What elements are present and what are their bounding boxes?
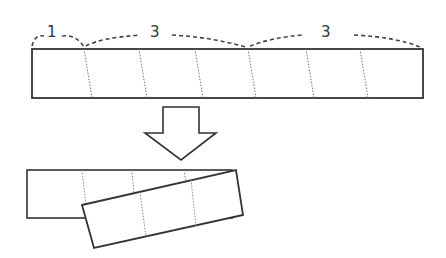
segment-braces [32,35,420,47]
down-arrow-icon [145,107,216,160]
label-1: 1 [47,23,57,41]
brace-1 [32,36,84,47]
label-3-second: 3 [321,23,331,41]
brace-3-right [250,35,420,47]
folding-diagram: 1 3 3 [0,0,446,258]
label-3-first: 3 [150,23,160,41]
brace-3-left [86,35,246,47]
